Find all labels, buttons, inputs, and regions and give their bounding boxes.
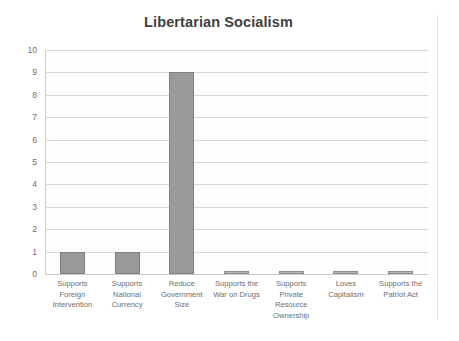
y-tick-label: 1 xyxy=(7,248,37,257)
slide-edge-line xyxy=(437,15,438,320)
bar xyxy=(60,252,85,274)
x-category-label-line: Capitalism xyxy=(319,290,374,301)
x-category-label-line: Currency xyxy=(100,300,155,311)
bar xyxy=(388,271,413,274)
y-tick-label: 0 xyxy=(7,270,37,279)
x-category-label: Supports theWar on Drugs xyxy=(209,279,264,300)
x-category-label: SupportsForeignIntervention xyxy=(45,279,100,311)
x-category-label-line: Loves xyxy=(319,279,374,290)
bar xyxy=(224,271,249,274)
x-category-label-line: Ownership xyxy=(264,311,319,322)
x-category-label: Supports thePatriot Act xyxy=(373,279,428,300)
x-category-label-line: Patriot Act xyxy=(373,290,428,301)
bar xyxy=(333,271,358,274)
x-category-label-line: Resource xyxy=(264,300,319,311)
x-category-label: SupportsPrivateResourceOwnership xyxy=(264,279,319,321)
x-category-label-line: Foreign xyxy=(45,290,100,301)
x-axis-category-labels: SupportsForeignInterventionSupportsNatio… xyxy=(45,279,428,339)
y-tick-label: 9 xyxy=(7,68,37,77)
bar-chart: Libertarian Socialism 109876543210 Suppo… xyxy=(0,0,459,341)
bar xyxy=(279,271,304,274)
x-category-label-line: Supports the xyxy=(373,279,428,290)
y-tick-label: 3 xyxy=(7,203,37,212)
x-category-label-line: War on Drugs xyxy=(209,290,264,301)
y-tick-label: 4 xyxy=(7,180,37,189)
x-category-label-line: Supports xyxy=(100,279,155,290)
y-tick-label: 8 xyxy=(7,91,37,100)
x-category-label-line: Government xyxy=(154,290,209,301)
y-tick-label: 6 xyxy=(7,136,37,145)
x-category-label-line: Private xyxy=(264,290,319,301)
x-category-label-line: Supports xyxy=(264,279,319,290)
y-tick-label: 5 xyxy=(7,158,37,167)
x-category-label: SupportsNationalCurrency xyxy=(100,279,155,311)
bar xyxy=(115,252,140,274)
x-category-label-line: Supports the xyxy=(209,279,264,290)
y-tick-label: 2 xyxy=(7,225,37,234)
chart-title: Libertarian Socialism xyxy=(0,14,437,30)
y-tick-label: 7 xyxy=(7,113,37,122)
x-category-label-line: Supports xyxy=(45,279,100,290)
x-category-label-line: National xyxy=(100,290,155,301)
x-category-label: ReduceGovernmentSize xyxy=(154,279,209,311)
bar-series xyxy=(45,50,428,275)
x-category-label-line: Intervention xyxy=(45,300,100,311)
x-category-label-line: Reduce xyxy=(154,279,209,290)
x-category-label-line: Size xyxy=(154,300,209,311)
x-category-label: LovesCapitalism xyxy=(319,279,374,300)
y-tick-label: 10 xyxy=(7,46,37,55)
bar xyxy=(169,72,194,274)
